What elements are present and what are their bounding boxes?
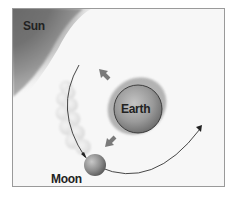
bulge-arrow-down-left-icon — [105, 137, 115, 147]
moon-label: Moon — [51, 172, 82, 186]
bulge-arrow-up-left-icon — [99, 69, 109, 79]
moon — [84, 154, 106, 176]
tidal-diagram — [13, 9, 225, 187]
diagram-frame: Sun Earth Moon — [12, 8, 225, 187]
orbit-arc — [99, 129, 200, 174]
earth-label: Earth — [121, 102, 150, 116]
sun-label: Sun — [23, 19, 45, 33]
moon-trail — [56, 81, 92, 156]
